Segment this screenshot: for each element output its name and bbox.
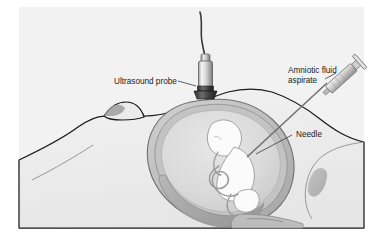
label-amniotic-fluid-line1: Amniotic fluid bbox=[288, 66, 337, 75]
probe-collar bbox=[198, 86, 214, 91]
amniocentesis-illustration: Ultrasound probe Amniotic fluid aspirate… bbox=[0, 0, 383, 243]
label-ultrasound-probe: Ultrasound probe bbox=[114, 77, 177, 86]
probe-transducer-base bbox=[194, 91, 217, 99]
label-amniotic-fluid-line2: aspirate bbox=[288, 76, 318, 85]
label-needle: Needle bbox=[296, 130, 322, 139]
figure-root: Ultrasound probe Amniotic fluid aspirate… bbox=[0, 0, 383, 243]
probe-body bbox=[199, 61, 213, 89]
fetus-lower-body bbox=[234, 189, 259, 212]
